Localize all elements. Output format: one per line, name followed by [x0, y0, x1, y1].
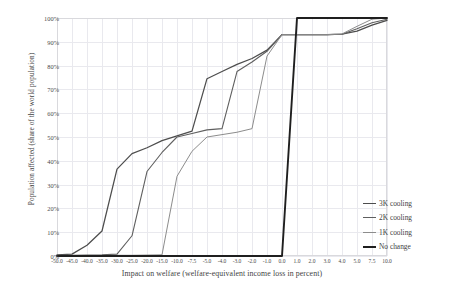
chart-legend: 3K cooling2K cooling1K coolingNo change — [363, 196, 449, 254]
plot-area — [57, 18, 387, 256]
legend-item[interactable]: 1K cooling — [363, 225, 449, 240]
y-tick-label: 20% — [19, 205, 59, 212]
y-tick-label: 50% — [19, 134, 59, 141]
y-tick-label: 30% — [19, 181, 59, 188]
x-tick-label: -25.0 — [126, 258, 137, 264]
y-tick-label: 100% — [19, 15, 59, 22]
series-line — [57, 19, 387, 255]
x-tick-label: -4.0 — [218, 258, 227, 264]
x-tick-label: 1.0 — [294, 258, 301, 264]
legend-label: No change — [379, 242, 411, 251]
x-tick-label: 10.0 — [382, 258, 392, 264]
x-tick-label: -2.0 — [248, 258, 257, 264]
x-tick-label: 0.0 — [279, 258, 286, 264]
legend-label: 2K cooling — [379, 213, 412, 222]
legend-label: 3K cooling — [379, 199, 412, 208]
x-tick-label: -1.0 — [263, 258, 272, 264]
x-tick-label: 4.0 — [339, 258, 346, 264]
legend-item[interactable]: No change — [363, 240, 449, 255]
legend-label: 1K cooling — [379, 228, 412, 237]
y-tick-label: 10% — [19, 229, 59, 236]
x-tick-label: -5.0 — [203, 258, 212, 264]
legend-item[interactable]: 2K cooling — [363, 211, 449, 226]
x-tick-label: -35.0 — [96, 258, 107, 264]
x-tick-label: -20.0 — [141, 258, 152, 264]
legend-line-swatch — [363, 217, 376, 218]
x-tick-label: 2.0 — [309, 258, 316, 264]
y-tick-label: 60% — [19, 110, 59, 117]
x-tick-label: 7.5 — [369, 258, 376, 264]
x-tick-label: -45.0 — [66, 258, 77, 264]
legend-line-swatch — [363, 203, 376, 204]
series-line — [57, 20, 387, 254]
series-line — [57, 18, 387, 256]
x-tick-label: -50.0 — [51, 258, 62, 264]
x-tick-label: -40.0 — [81, 258, 92, 264]
x-tick-label: -30.0 — [111, 258, 122, 264]
x-tick-label: -3.0 — [233, 258, 242, 264]
y-tick-label: 80% — [19, 62, 59, 69]
x-tick-label: -15.0 — [156, 258, 167, 264]
legend-line-swatch — [363, 232, 376, 233]
x-axis-title: Impact on welfare (welfare-equivalent in… — [57, 269, 387, 278]
legend-item[interactable]: 3K cooling — [363, 196, 449, 211]
series-lines — [57, 18, 387, 256]
x-tick-label: 3.0 — [324, 258, 331, 264]
x-tick-label: 5.0 — [354, 258, 361, 264]
x-tick-label: -7.5 — [188, 258, 197, 264]
y-tick-label: 70% — [19, 86, 59, 93]
legend-line-swatch — [363, 246, 376, 248]
series-line — [57, 18, 387, 256]
y-tick-label: 40% — [19, 157, 59, 164]
x-tick-label: -10.0 — [171, 258, 182, 264]
y-tick-label: 90% — [19, 38, 59, 45]
chart-figure: Population affected (share of the world … — [0, 0, 450, 299]
